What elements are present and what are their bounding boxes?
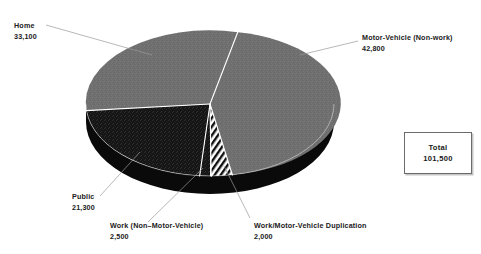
total-box-value: 101,500 <box>423 153 453 164</box>
slice-label-motor-vehicle-name: Motor-Vehicle (Non-work) <box>362 33 453 42</box>
slice-label-home: Home 33,100 <box>14 21 37 42</box>
pie-slices <box>86 30 341 176</box>
pie-chart-figure: Home 33,100 Motor-Vehicle (Non-work) 42,… <box>0 0 481 254</box>
slice-label-home-value: 33,100 <box>14 32 37 43</box>
slice-label-work-non-motor-vehicle: Work (Non–Motor-Vehicle) 2,500 <box>110 221 203 242</box>
slice-label-home-name: Home <box>14 21 35 30</box>
pie-slice-public <box>87 104 210 176</box>
slice-label-public: Public 21,300 <box>72 192 95 213</box>
leader-line-motor <box>300 41 358 55</box>
slice-label-duplication-value: 2,000 <box>254 232 367 243</box>
slice-label-work-non-motor-vehicle-value: 2,500 <box>110 232 203 243</box>
slice-label-motor-vehicle: Motor-Vehicle (Non-work) 42,800 <box>362 33 453 54</box>
slice-label-public-name: Public <box>72 192 94 201</box>
total-box: Total 101,500 <box>404 132 472 174</box>
slice-label-duplication-name: Work/Motor-Vehicle Duplication <box>254 221 367 230</box>
slice-label-work-non-motor-vehicle-name: Work (Non–Motor-Vehicle) <box>110 221 203 230</box>
leader-line-home <box>46 25 152 55</box>
slice-label-public-value: 21,300 <box>72 203 95 214</box>
total-box-label: Total <box>428 142 447 153</box>
slice-label-duplication: Work/Motor-Vehicle Duplication 2,000 <box>254 221 367 242</box>
slice-label-motor-vehicle-value: 42,800 <box>362 44 453 55</box>
